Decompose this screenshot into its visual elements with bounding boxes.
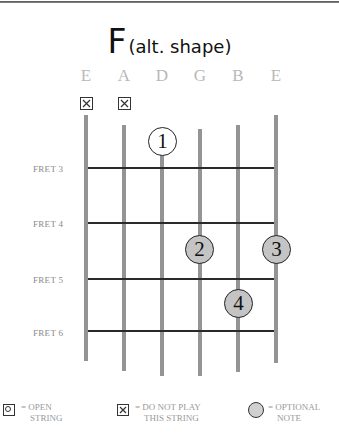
string-name-g: G <box>190 66 210 86</box>
string-name-d: D <box>152 66 172 86</box>
top-rule <box>0 1 339 3</box>
string-d <box>160 128 164 376</box>
string-name-low-e: E <box>76 66 96 86</box>
string-b <box>236 125 240 372</box>
open-string-icon <box>3 404 15 416</box>
fret-line-4 <box>88 222 274 224</box>
string-a <box>122 125 126 371</box>
legend-mute-line1: = DO NOT PLAY <box>135 402 201 412</box>
fret-line-5 <box>88 278 274 280</box>
chord-variant: (alt. shape) <box>129 36 232 57</box>
legend-optional-note: = OPTIONAL NOTE <box>248 402 320 424</box>
mute-x-icon <box>117 404 129 416</box>
finger-1-marker: 1 <box>148 127 177 156</box>
fret-label-3: FRET 3 <box>33 164 73 174</box>
string-name-a: A <box>114 66 134 86</box>
fret-line-3 <box>88 167 274 169</box>
legend-open-string: = OPEN STRING <box>3 402 63 424</box>
chord-name: F <box>108 22 127 61</box>
fret-line-6 <box>88 330 274 332</box>
finger-2-marker: 2 <box>185 235 214 264</box>
fret-label-4: FRET 4 <box>33 219 73 229</box>
legend-mute-line2: THIS STRING <box>135 413 201 424</box>
string-name-high-e: E <box>266 66 286 86</box>
finger-3-marker: 3 <box>262 235 291 264</box>
mute-x-icon <box>118 97 131 110</box>
fret-label-5: FRET 5 <box>33 275 73 285</box>
finger-4-marker: 4 <box>224 289 253 318</box>
legend-open-line1: = OPEN <box>21 402 52 412</box>
legend-mute-string: = DO NOT PLAY THIS STRING <box>117 402 201 424</box>
fret-label-6: FRET 6 <box>33 328 73 338</box>
string-name-b: B <box>228 66 248 86</box>
optional-note-icon <box>248 402 264 418</box>
chord-title: F(alt. shape) <box>0 22 339 61</box>
string-low-e <box>84 115 88 361</box>
legend-optional-line2: NOTE <box>268 413 320 424</box>
legend-open-line2: STRING <box>21 413 63 424</box>
legend-optional-line1: = OPTIONAL <box>268 402 320 412</box>
mute-x-icon <box>80 97 93 110</box>
